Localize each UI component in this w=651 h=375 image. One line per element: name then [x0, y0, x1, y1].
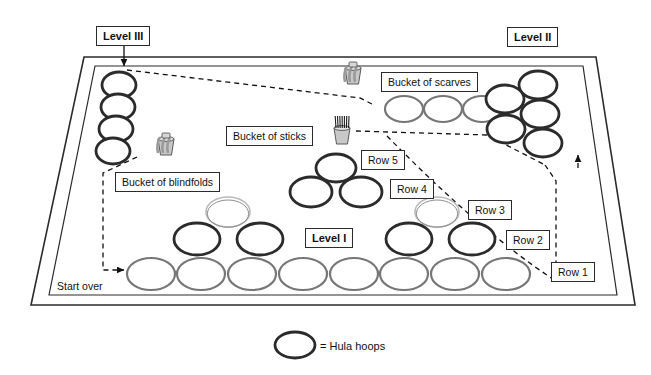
hoop-level2-2 — [486, 85, 524, 113]
hoop-level2-4 — [487, 115, 525, 143]
hoop-row1-4 — [279, 258, 327, 290]
level-3-label: Level III — [96, 26, 150, 46]
hula-hoop-symbol — [275, 332, 315, 358]
hoop-row3-left — [206, 197, 250, 227]
row-4-label: Row 4 — [390, 179, 434, 199]
hoop-row1-3 — [228, 258, 276, 290]
hoop-row2-1 — [174, 223, 220, 255]
hoop-scarves-row-1 — [385, 96, 423, 122]
hoop-ring — [487, 115, 525, 143]
hoop-ring — [449, 223, 495, 255]
legend-label: = Hula hoops — [320, 340, 385, 352]
hoop-level2-1 — [519, 71, 557, 99]
stick — [338, 116, 339, 128]
hoop-ring — [524, 129, 562, 157]
hoop-row2-3 — [386, 223, 432, 255]
row-1-label: Row 1 — [551, 262, 595, 282]
level-1-label: Level I — [305, 228, 353, 248]
hoop-row4-1 — [290, 177, 332, 207]
hoop-level2-3 — [521, 100, 559, 128]
hoop-row4-2 — [340, 177, 382, 207]
hoop-ring — [431, 258, 479, 290]
hoop-ring — [174, 223, 220, 255]
hoop-row1-8 — [482, 258, 530, 290]
dashed-route-upper — [127, 70, 372, 104]
hoop-level3-4 — [96, 138, 130, 164]
cloth-fold — [349, 62, 357, 67]
hoop-ring — [521, 100, 559, 128]
hoop-scarves-row-2 — [424, 96, 462, 122]
hoop-ring — [385, 96, 423, 122]
hoop-row1-6 — [380, 258, 428, 290]
legend-layer — [275, 332, 315, 358]
hoop-ring — [340, 177, 382, 207]
hoop-ring — [279, 258, 327, 290]
hoop-row1-5 — [330, 258, 378, 290]
hoop-ring — [228, 258, 276, 290]
level-2-label: Level II — [507, 27, 558, 47]
hoop-row1-1 — [127, 258, 175, 290]
hoop-ring — [486, 85, 524, 113]
hoop-ring — [330, 258, 378, 290]
diagram-canvas: Level IIILevel IILevel IBucket of scarve… — [0, 0, 651, 375]
row-5-label: Row 5 — [361, 150, 405, 170]
hoop-ring — [237, 223, 283, 255]
bucket-of-sticks-label: Bucket of sticks — [226, 126, 313, 146]
hoop-ring — [380, 258, 428, 290]
hoop-row1-7 — [431, 258, 479, 290]
bucket-of-blindfolds-label: Bucket of blindfolds — [115, 172, 220, 192]
hoop-ring — [290, 177, 332, 207]
hoop-row2-2 — [237, 223, 283, 255]
bucket-of-blindfolds-icon — [157, 133, 174, 155]
hoop-ring — [96, 138, 130, 164]
cloth-fold — [162, 133, 170, 138]
hoop-row1-2 — [177, 258, 225, 290]
start-over-label: Start over — [57, 280, 103, 292]
hoop-ring — [386, 223, 432, 255]
hoop-ring — [424, 96, 462, 122]
hoop-ring — [519, 71, 557, 99]
bucket-of-scarves-icon — [344, 62, 361, 84]
row-2-label: Row 2 — [506, 230, 550, 250]
hoop-row2-4 — [449, 223, 495, 255]
hoop-ring — [177, 258, 225, 290]
diagram-artwork — [0, 0, 651, 375]
hoop-row3-right — [415, 197, 459, 227]
bucket-of-scarves-label: Bucket of scarves — [381, 72, 478, 92]
bucket-of-sticks-icon — [334, 116, 350, 144]
hoop-ring — [127, 258, 175, 290]
hoop-level2-5 — [524, 129, 562, 157]
hoop-ring — [482, 258, 530, 290]
row-3-label: Row 3 — [468, 200, 512, 220]
